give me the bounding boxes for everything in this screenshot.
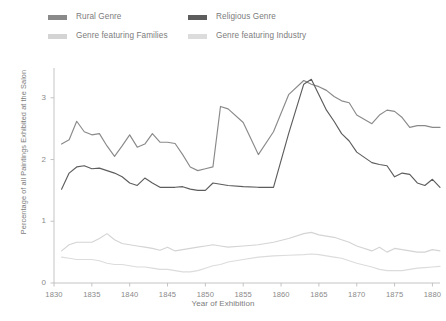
series-line-genre-featuring-industry: [62, 254, 440, 272]
axis-lines: [51, 68, 441, 287]
series-line-religious-genre: [62, 79, 440, 190]
plot-area: [0, 0, 446, 321]
series-lines: [62, 79, 440, 272]
series-line-genre-featuring-families: [62, 232, 440, 252]
series-line-rural-genre: [62, 81, 440, 171]
line-chart-figure: Rural Genre Religious Genre Genre featur…: [0, 0, 446, 321]
